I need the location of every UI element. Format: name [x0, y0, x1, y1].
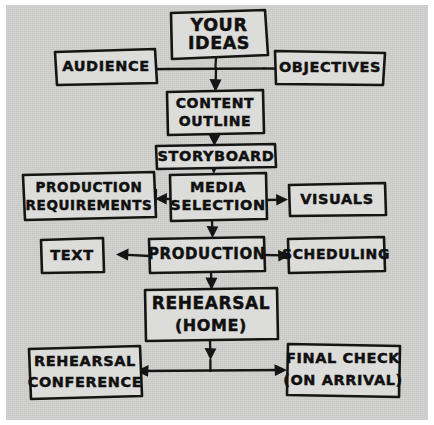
edge-production-to-rehearsal [205, 272, 217, 290]
flowchart-image: YOUR IDEAS AUDIENCE OBJECTIVES CONTENT O… [0, 0, 434, 425]
node-media-selection-line-0: MEDIA [190, 179, 246, 195]
edge-production-to-text [116, 249, 150, 261]
node-media-selection[interactable]: MEDIA SELECTION [170, 173, 267, 221]
node-storyboard[interactable]: STORYBOARD [156, 144, 276, 169]
node-your-ideas-line-0: YOUR [189, 15, 247, 35]
edge-media-selection-to-production [207, 220, 219, 238]
node-objectives[interactable]: OBJECTIVES [275, 51, 385, 85]
node-audience-label: AUDIENCE [62, 58, 149, 74]
node-final-check-line-1: (ON ARRIVAL) [283, 372, 403, 388]
node-final-check[interactable]: FINAL CHECK (ON ARRIVAL) [283, 344, 403, 397]
node-production-requirements[interactable]: PRODUCTION REQUIREMENTS [23, 172, 156, 220]
edge-media-selection-to-visuals [267, 194, 288, 206]
node-final-check-line-0: FINAL CHECK [286, 350, 400, 366]
node-content-outline-line-1: OUTLINE [179, 113, 251, 129]
arrowhead-down-production [207, 226, 219, 238]
node-rehearsal-home-line-1: (HOME) [175, 316, 247, 335]
node-rehearsal-home[interactable]: REHEARSAL (HOME) [145, 288, 278, 341]
node-text[interactable]: TEXT [41, 238, 104, 273]
node-text-label: TEXT [50, 247, 93, 263]
node-content-outline[interactable]: CONTENT OUTLINE [167, 90, 264, 135]
arrowhead-down-rehearsal-split [205, 348, 217, 360]
node-rehearsal-conference-line-0: REHEARSAL [34, 353, 136, 369]
node-rehearsal-conference[interactable]: REHEARSAL CONFERENCE [28, 346, 143, 399]
edge-rehearsal-branch [136, 340, 287, 377]
node-production-requirements-line-0: PRODUCTION [36, 179, 143, 195]
arrowhead-right-visuals [276, 194, 288, 206]
edge-media-selection-to-production-requirements [155, 190, 171, 208]
node-visuals[interactable]: VISUALS [289, 183, 386, 216]
node-content-outline-line-0: CONTENT [176, 95, 254, 111]
node-audience[interactable]: AUDIENCE [55, 49, 157, 85]
node-objectives-label: OBJECTIVES [279, 59, 381, 75]
node-production-label: PRODUCTION [148, 245, 266, 263]
node-visuals-label: VISUALS [300, 191, 374, 207]
node-rehearsal-home-line-0: REHEARSAL [152, 293, 270, 313]
node-production-requirements-line-1: REQUIREMENTS [26, 197, 153, 213]
node-rehearsal-conference-line-1: CONFERENCE [28, 374, 143, 390]
flowchart-canvas: YOUR IDEAS AUDIENCE OBJECTIVES CONTENT O… [0, 0, 434, 425]
node-scheduling-label: SCHEDULING [282, 246, 390, 262]
node-scheduling[interactable]: SCHEDULING [282, 237, 390, 273]
node-storyboard-label: STORYBOARD [158, 148, 275, 164]
arrowhead-left-text [116, 249, 129, 261]
node-your-ideas-line-1: IDEAS [188, 33, 250, 53]
node-production[interactable]: PRODUCTION [148, 237, 266, 273]
node-your-ideas[interactable]: YOUR IDEAS [171, 10, 268, 59]
node-media-selection-line-1: SELECTION [170, 197, 265, 213]
